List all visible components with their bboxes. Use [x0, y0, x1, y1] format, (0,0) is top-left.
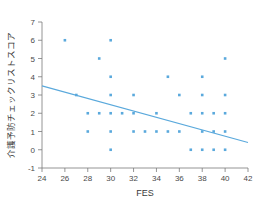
data-point-marker	[109, 148, 112, 151]
y-tick-label: 7	[31, 18, 36, 27]
data-point-marker	[189, 112, 192, 115]
x-tick-label: 34	[152, 174, 161, 183]
x-tick-label: 24	[38, 174, 47, 183]
y-tick-label: 2	[31, 109, 36, 118]
y-tick-label: 6	[31, 36, 36, 45]
data-point-marker	[224, 94, 227, 97]
data-point-marker	[75, 94, 78, 97]
data-point-marker	[109, 112, 112, 115]
data-point-marker	[212, 148, 215, 151]
x-tick-label: 26	[60, 174, 69, 183]
data-point-marker	[224, 148, 227, 151]
x-tick-label: 42	[244, 174, 253, 183]
data-point-marker	[155, 130, 158, 133]
data-point-marker	[98, 57, 101, 60]
data-point-marker	[64, 39, 67, 42]
data-point-marker	[144, 130, 147, 133]
scatter-plot: -101234567 24262830323436384042 FES 介護予防…	[0, 0, 265, 209]
data-point-marker	[109, 130, 112, 133]
data-point-marker	[132, 94, 135, 97]
y-tick-label: 3	[31, 91, 36, 100]
x-axis-title: FES	[136, 188, 154, 198]
data-point-marker	[224, 130, 227, 133]
x-tick-label: 28	[83, 174, 92, 183]
data-point-marker	[189, 148, 192, 151]
x-tick-label: 38	[198, 174, 207, 183]
x-tick-label: 40	[221, 174, 230, 183]
y-tick-label: 4	[31, 73, 36, 82]
data-point-marker	[109, 75, 112, 78]
data-point-marker	[201, 75, 204, 78]
data-point-marker	[224, 112, 227, 115]
x-tick-label: 32	[129, 174, 138, 183]
data-point-marker	[109, 39, 112, 42]
data-point-marker	[155, 112, 158, 115]
data-point-marker	[132, 112, 135, 115]
data-point-marker	[86, 130, 89, 133]
data-point-marker	[212, 130, 215, 133]
y-tick-label: 1	[31, 128, 36, 137]
data-point-marker	[201, 112, 204, 115]
data-point-marker	[132, 130, 135, 133]
x-tick-label: 36	[175, 174, 184, 183]
y-tick-label: 5	[31, 55, 36, 64]
y-tick-label: 0	[31, 146, 36, 155]
data-point-marker	[167, 75, 170, 78]
data-point-marker	[98, 112, 101, 115]
data-point-marker	[121, 112, 124, 115]
data-point-marker	[178, 130, 181, 133]
data-point-marker	[201, 148, 204, 151]
data-point-marker	[167, 130, 170, 133]
data-point-marker	[201, 130, 204, 133]
y-axis-title: 介護予防チェックリストスコア	[6, 32, 16, 158]
data-point-marker	[86, 112, 89, 115]
data-point-marker	[201, 94, 204, 97]
data-point-marker	[224, 57, 227, 60]
y-tick-label: -1	[28, 164, 36, 173]
data-point-marker	[178, 94, 181, 97]
data-point-marker	[212, 112, 215, 115]
chart-figure: -101234567 24262830323436384042 FES 介護予防…	[0, 0, 265, 209]
x-tick-label: 30	[106, 174, 115, 183]
data-point-marker	[109, 94, 112, 97]
